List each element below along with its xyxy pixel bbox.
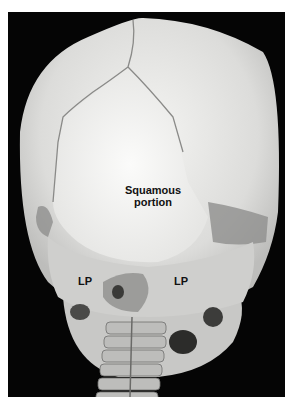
lp-label-right: LP xyxy=(174,275,188,287)
photo-frame: Squamous portion LP LP xyxy=(8,12,285,397)
squamous-portion-label: Squamous portion xyxy=(98,184,208,208)
squamous-label-line1: Squamous xyxy=(98,184,208,196)
squamous-label-line2: portion xyxy=(98,196,208,208)
lp-label-left: LP xyxy=(78,275,92,287)
